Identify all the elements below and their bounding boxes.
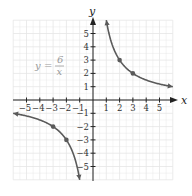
x-tick-label: −2 bbox=[59, 103, 72, 113]
y-tick-label: −3 bbox=[76, 135, 89, 145]
x-tick-label: −4 bbox=[32, 103, 45, 113]
x-tick-label: 4 bbox=[143, 103, 148, 113]
chart-canvas: −5−4−3−2−11234554321−1−2−3−4−5 x y y = 6… bbox=[0, 0, 192, 196]
data-point bbox=[117, 58, 122, 63]
data-point bbox=[51, 124, 56, 129]
y-tick-label: 3 bbox=[84, 55, 89, 65]
y-axis-label: y bbox=[88, 5, 96, 18]
equation-lhs: y bbox=[34, 60, 41, 71]
y-tick-label: 4 bbox=[84, 42, 89, 52]
x-axis-label: x bbox=[181, 94, 188, 107]
equation-denominator: x bbox=[57, 66, 63, 77]
x-axis-arrow-icon bbox=[170, 97, 178, 103]
x-tick-label: 3 bbox=[130, 103, 135, 113]
y-tick-label: −4 bbox=[76, 148, 89, 158]
x-tick-label: −3 bbox=[45, 103, 58, 113]
equation-numerator: 6 bbox=[57, 54, 64, 65]
y-tick-label: 1 bbox=[84, 82, 89, 92]
axes bbox=[13, 20, 174, 181]
data-point bbox=[131, 71, 136, 76]
x-tick-label: −5 bbox=[19, 103, 32, 113]
y-tick-label: −2 bbox=[76, 122, 89, 132]
y-tick-label: −1 bbox=[76, 108, 89, 118]
x-tick-label: 2 bbox=[117, 103, 122, 113]
y-axis-arrow-icon bbox=[90, 17, 96, 25]
y-tick-label: 2 bbox=[84, 68, 89, 78]
equation-equals: = bbox=[44, 60, 52, 71]
x-tick-label: 1 bbox=[104, 103, 109, 113]
y-tick-label: 5 bbox=[84, 29, 89, 39]
x-tick-label: 5 bbox=[157, 103, 162, 113]
data-point bbox=[64, 138, 69, 143]
